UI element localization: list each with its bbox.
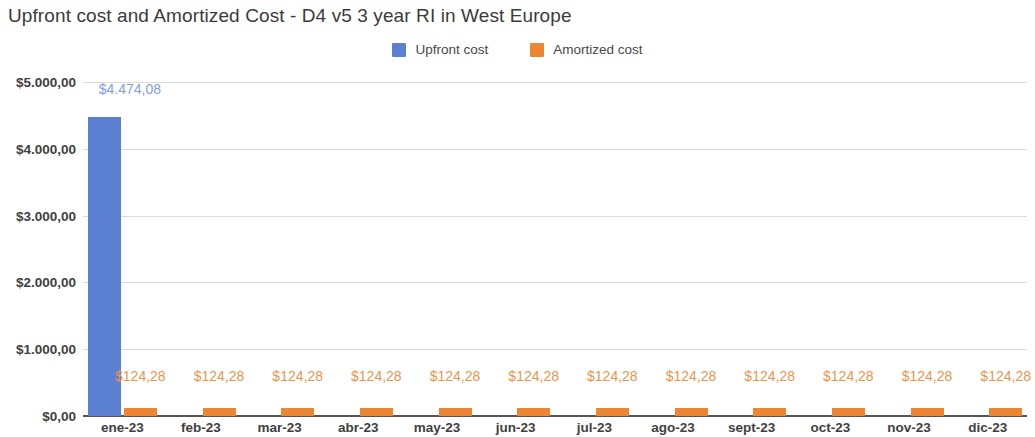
bar-amortized-jul-23[interactable] [596, 408, 629, 416]
data-label-amortized-may-23: $124,28 [430, 368, 481, 384]
x-axis-tick-label: jul-23 [577, 420, 612, 435]
y-axis-tick-label: $1.000,00 [16, 342, 76, 357]
y-axis-tick-label: $0,00 [42, 409, 76, 424]
y-axis-tick-label: $4.000,00 [16, 141, 76, 156]
gridline [83, 282, 1027, 283]
y-axis-tick-label: $2.000,00 [16, 275, 76, 290]
x-axis-tick-label: abr-23 [338, 420, 379, 435]
bar-amortized-may-23[interactable] [439, 408, 472, 416]
gridline [83, 349, 1027, 350]
legend-swatch-icon-upfront-cost [392, 43, 406, 57]
bar-amortized-feb-23[interactable] [203, 408, 236, 416]
bar-amortized-oct-23[interactable] [832, 408, 865, 416]
legend-item-upfront-cost[interactable]: Upfront cost [392, 42, 488, 57]
data-label-amortized-ago-23: $124,28 [666, 368, 717, 384]
bar-amortized-abr-23[interactable] [360, 408, 393, 416]
bar-amortized-jun-23[interactable] [517, 408, 550, 416]
gridline [83, 149, 1027, 150]
x-axis-tick-label: mar-23 [258, 420, 302, 435]
y-axis-tick-label: $5.000,00 [16, 75, 76, 90]
bar-amortized-dic-23[interactable] [989, 408, 1022, 416]
chart-title: Upfront cost and Amortized Cost - D4 v5 … [8, 3, 572, 29]
x-axis-tick-label: nov-23 [887, 420, 931, 435]
x-axis-tick-label: oct-23 [810, 420, 850, 435]
data-label-amortized-oct-23: $124,28 [823, 368, 874, 384]
chart-container: Upfront cost and Amortized Cost - D4 v5 … [0, 0, 1035, 437]
legend-label-upfront-cost: Upfront cost [415, 42, 488, 57]
data-label-amortized-feb-23: $124,28 [194, 368, 245, 384]
bar-amortized-sept-23[interactable] [753, 408, 786, 416]
legend-swatch-icon-amortized-cost [530, 43, 544, 57]
gridline [83, 216, 1027, 217]
bar-amortized-nov-23[interactable] [911, 408, 944, 416]
bar-amortized-ene-23[interactable] [124, 408, 157, 416]
data-label-amortized-jun-23: $124,28 [508, 368, 559, 384]
x-axis-tick-label: feb-23 [181, 420, 221, 435]
data-label-amortized-nov-23: $124,28 [902, 368, 953, 384]
legend-label-amortized-cost: Amortized cost [553, 42, 642, 57]
data-label-amortized-sept-23: $124,28 [744, 368, 795, 384]
y-axis-tick-label: $3.000,00 [16, 208, 76, 223]
data-label-amortized-ene-23: $124,28 [115, 368, 166, 384]
bar-amortized-mar-23[interactable] [281, 408, 314, 416]
x-axis-tick-label: sept-23 [728, 420, 775, 435]
chart-legend: Upfront cost Amortized cost [0, 42, 1035, 57]
data-label-upfront-ene-23: $4.474,08 [99, 81, 161, 97]
data-label-amortized-abr-23: $124,28 [351, 368, 402, 384]
legend-item-amortized-cost[interactable]: Amortized cost [530, 42, 642, 57]
bar-amortized-ago-23[interactable] [675, 408, 708, 416]
data-label-amortized-mar-23: $124,28 [272, 368, 323, 384]
x-axis-tick-label: dic-23 [968, 420, 1007, 435]
x-axis-tick-label: ago-23 [651, 420, 695, 435]
x-axis-tick-label: ene-23 [101, 420, 144, 435]
gridline [83, 82, 1027, 83]
x-axis-tick-label: jun-23 [496, 420, 536, 435]
data-label-amortized-jul-23: $124,28 [587, 368, 638, 384]
data-label-amortized-dic-23: $124,28 [980, 368, 1031, 384]
plot-area: $4.474,08$124,28$124,28$124,28$124,28$12… [83, 82, 1027, 416]
x-axis-tick-label: may-23 [414, 420, 461, 435]
y-axis-labels: $0,00$1.000,00$2.000,00$3.000,00$4.000,0… [0, 82, 76, 416]
x-axis-labels: ene-23feb-23mar-23abr-23may-23jun-23jul-… [83, 420, 1027, 437]
